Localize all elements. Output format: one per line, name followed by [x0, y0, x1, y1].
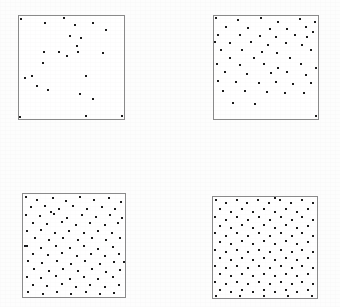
- data-point: [33, 268, 35, 270]
- data-point: [83, 245, 85, 247]
- data-point: [97, 278, 99, 280]
- data-point: [46, 285, 48, 287]
- data-point: [69, 35, 71, 37]
- data-point: [86, 208, 88, 210]
- data-point: [296, 211, 298, 213]
- data-point: [225, 235, 227, 237]
- data-point: [68, 230, 70, 232]
- data-point: [214, 281, 216, 283]
- data-point: [118, 284, 120, 286]
- data-point: [214, 216, 216, 218]
- data-point: [285, 208, 287, 210]
- data-point: [215, 295, 217, 297]
- data-point: [219, 273, 221, 275]
- data-point: [224, 71, 226, 73]
- data-point: [259, 35, 261, 37]
- data-point: [58, 51, 60, 53]
- data-point: [104, 286, 106, 288]
- data-point: [258, 232, 260, 234]
- data-point: [307, 257, 309, 259]
- data-point: [236, 232, 238, 234]
- data-point: [214, 41, 216, 43]
- data-point: [277, 67, 279, 69]
- data-point: [217, 34, 219, 36]
- data-point: [36, 85, 38, 87]
- data-point: [101, 206, 103, 208]
- data-point: [230, 227, 232, 229]
- data-point: [296, 259, 298, 261]
- data-point: [279, 199, 281, 201]
- data-point: [269, 283, 271, 285]
- data-point: [246, 73, 248, 75]
- data-point: [70, 293, 72, 295]
- data-point: [20, 18, 22, 20]
- data-point: [311, 295, 313, 297]
- data-point: [301, 281, 303, 283]
- data-point: [55, 245, 57, 247]
- data-point: [239, 34, 241, 36]
- data-point: [258, 281, 260, 283]
- data-point: [301, 232, 303, 234]
- data-point: [268, 202, 270, 204]
- data-point: [236, 199, 238, 201]
- scatter-panel-top-left: [18, 15, 125, 120]
- data-point: [287, 295, 289, 297]
- data-point: [104, 255, 106, 257]
- data-point: [62, 237, 64, 239]
- data-point: [274, 227, 276, 229]
- data-point: [80, 37, 82, 39]
- data-point: [48, 270, 50, 272]
- data-point: [214, 232, 216, 234]
- data-point: [90, 253, 92, 255]
- data-point: [258, 216, 260, 218]
- data-point: [312, 251, 314, 253]
- data-point: [294, 34, 296, 36]
- data-point: [252, 275, 254, 277]
- data-point: [69, 247, 71, 249]
- data-point: [300, 63, 302, 65]
- data-point: [105, 239, 107, 241]
- data-point: [40, 277, 42, 279]
- data-point: [91, 237, 93, 239]
- data-point: [301, 216, 303, 218]
- data-point: [250, 41, 252, 43]
- data-point: [53, 213, 55, 215]
- data-point: [257, 199, 259, 201]
- data-point: [230, 275, 232, 277]
- data-point: [286, 71, 288, 73]
- data-point: [114, 208, 116, 210]
- data-point: [65, 200, 67, 202]
- data-point: [102, 52, 104, 54]
- data-point: [89, 222, 91, 224]
- data-point: [263, 273, 265, 275]
- data-point: [285, 240, 287, 242]
- data-point: [85, 75, 87, 77]
- figure-root: [0, 0, 340, 307]
- data-point: [310, 49, 312, 51]
- data-point: [274, 259, 276, 261]
- data-point: [119, 237, 121, 239]
- data-point: [76, 255, 78, 257]
- point-layer: [19, 16, 124, 119]
- data-point: [62, 268, 64, 270]
- data-point: [26, 276, 28, 278]
- data-point: [56, 260, 58, 262]
- data-point: [225, 267, 227, 269]
- data-point: [307, 273, 309, 275]
- data-point: [241, 289, 243, 291]
- data-point: [312, 267, 314, 269]
- data-point: [236, 281, 238, 283]
- data-point: [307, 208, 309, 210]
- data-point: [236, 265, 238, 267]
- scatter-panel-bottom-left: [22, 193, 126, 298]
- data-point: [230, 243, 232, 245]
- data-point: [284, 92, 286, 94]
- data-point: [56, 291, 58, 293]
- data-point: [25, 214, 27, 216]
- data-point: [232, 102, 234, 104]
- data-point: [112, 276, 114, 278]
- data-point: [225, 251, 227, 253]
- data-point: [77, 270, 79, 272]
- data-point: [230, 211, 232, 213]
- data-point: [225, 283, 227, 285]
